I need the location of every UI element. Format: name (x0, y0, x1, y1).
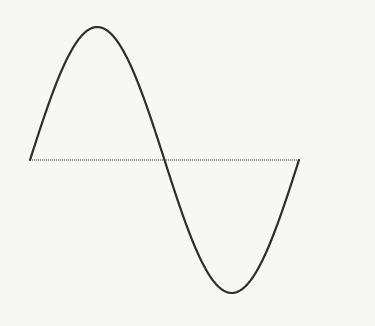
sine-wave-plot (0, 0, 375, 326)
sine-wave-diagram: Sine wave (one full period) (0, 0, 375, 326)
